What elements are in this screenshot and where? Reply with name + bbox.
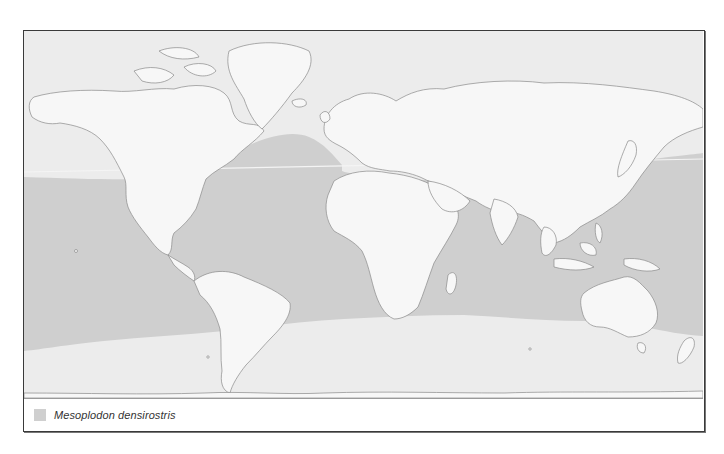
map-legend: Mesoplodon densirostris [34, 406, 176, 424]
world-range-map [24, 31, 703, 399]
new-zealand [677, 338, 694, 364]
map-figure-frame: Mesoplodon densirostris [23, 30, 705, 432]
greenland [228, 43, 311, 129]
antarctica [24, 391, 703, 398]
legend-swatch [34, 409, 46, 421]
world-map-graphic [24, 31, 703, 398]
legend-label: Mesoplodon densirostris [54, 409, 176, 421]
